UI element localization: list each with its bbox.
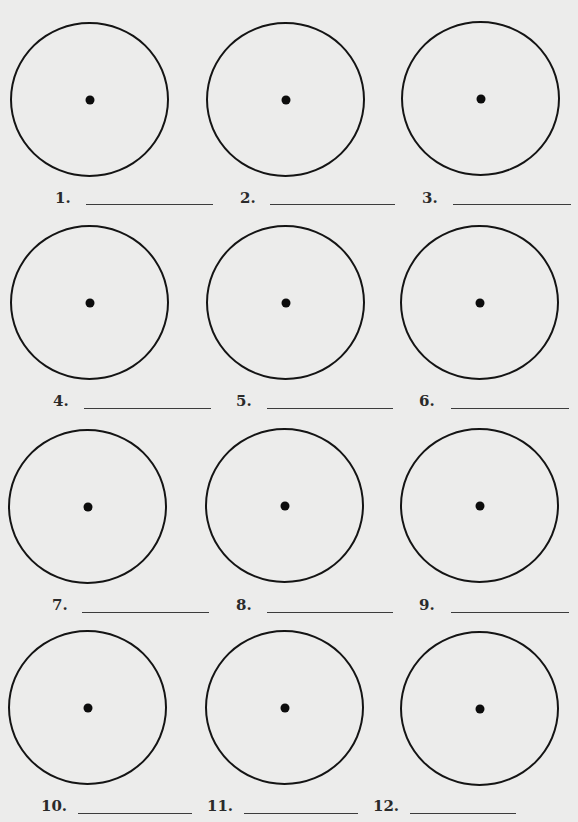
- circle-figure: [401, 21, 560, 176]
- worksheet: 1. 2. 3. 4. 5. 6.: [0, 0, 578, 822]
- circle-figure: [206, 225, 365, 380]
- answer-line[interactable]: [410, 813, 516, 814]
- item-number: 1.: [55, 191, 71, 206]
- item-number: 8.: [236, 598, 252, 613]
- answer-line[interactable]: [267, 612, 393, 613]
- item-number: 9.: [419, 598, 435, 613]
- center-dot: [280, 501, 289, 510]
- center-dot: [280, 703, 289, 712]
- circle-figure: [206, 22, 365, 177]
- answer-line[interactable]: [453, 204, 571, 205]
- answer-line[interactable]: [84, 408, 211, 409]
- center-dot: [475, 501, 484, 510]
- circle-figure: [10, 22, 169, 177]
- center-dot: [85, 298, 94, 307]
- answer-line[interactable]: [244, 813, 358, 814]
- circle-figure: [400, 225, 559, 380]
- circle-figure: [400, 631, 559, 786]
- center-dot: [476, 94, 485, 103]
- item-number: 4.: [53, 394, 69, 409]
- center-dot: [281, 95, 290, 104]
- circle-figure: [8, 630, 167, 785]
- item-number: 2.: [240, 191, 256, 206]
- center-dot: [83, 703, 92, 712]
- item-number: 7.: [52, 598, 68, 613]
- item-number: 10.: [41, 799, 67, 814]
- answer-line[interactable]: [451, 408, 569, 409]
- item-number: 11.: [207, 799, 233, 814]
- answer-line[interactable]: [451, 612, 569, 613]
- item-number: 3.: [422, 191, 438, 206]
- center-dot: [281, 298, 290, 307]
- answer-line[interactable]: [82, 612, 209, 613]
- circle-figure: [400, 428, 559, 583]
- answer-line[interactable]: [78, 813, 192, 814]
- answer-line[interactable]: [267, 408, 393, 409]
- answer-line[interactable]: [86, 204, 213, 205]
- item-number: 12.: [373, 799, 399, 814]
- item-number: 5.: [236, 394, 252, 409]
- circle-figure: [8, 429, 167, 584]
- circle-figure: [205, 630, 364, 785]
- answer-line[interactable]: [270, 204, 395, 205]
- center-dot: [475, 298, 484, 307]
- item-number: 6.: [419, 394, 435, 409]
- circle-figure: [205, 428, 364, 583]
- center-dot: [83, 502, 92, 511]
- center-dot: [85, 95, 94, 104]
- center-dot: [475, 704, 484, 713]
- circle-figure: [10, 225, 169, 380]
